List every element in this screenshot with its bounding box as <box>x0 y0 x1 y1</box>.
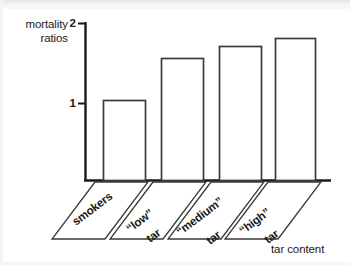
bar-low-tar <box>162 59 204 181</box>
bar-series <box>104 39 316 181</box>
category-labels: smokers “low” tar “medium” tar “high” ta… <box>69 189 281 247</box>
plot-area: smokers “low” tar “medium” tar “high” ta… <box>0 0 350 265</box>
bar-high-tar <box>276 39 316 181</box>
bar-smokers <box>104 101 146 181</box>
category-label-low-tar-line2: tar <box>143 225 163 244</box>
category-label-medium-tar-line2: tar <box>203 227 223 246</box>
category-label-smokers: smokers <box>69 189 115 228</box>
bar-medium-tar <box>220 47 262 181</box>
chart-figure: mortality ratios 2 1 tar content <box>0 0 350 265</box>
category-label-high-tar-line2: tar <box>261 226 281 245</box>
